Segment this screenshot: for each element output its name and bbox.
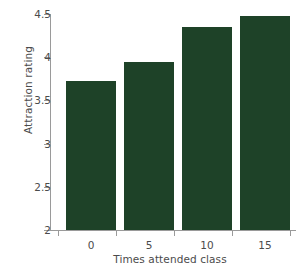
x-tick-mark <box>232 230 233 236</box>
x-tick-mark <box>58 230 59 236</box>
x-tick-mark <box>290 230 291 236</box>
x-tick-label: 15 <box>240 239 290 251</box>
bar-chart: Attraction rating 22.533.544.5 051015 Ti… <box>0 0 300 267</box>
bar <box>66 81 116 230</box>
x-tick-label: 0 <box>66 239 116 251</box>
x-tick-label: 10 <box>182 239 232 251</box>
x-tick-mark <box>116 230 117 236</box>
bar <box>182 27 232 230</box>
plot-area <box>0 0 300 267</box>
x-tick-mark <box>174 230 175 236</box>
x-tick-label: 5 <box>124 239 174 251</box>
bar <box>240 16 290 230</box>
x-axis-title: Times attended class <box>44 253 296 265</box>
bar <box>124 62 174 230</box>
